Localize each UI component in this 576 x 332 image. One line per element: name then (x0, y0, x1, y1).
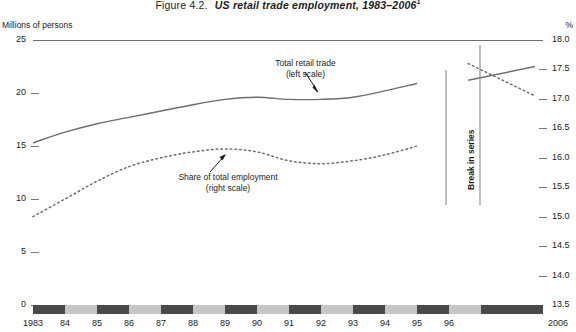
x-band-segment (193, 305, 225, 314)
x-band-segment (33, 305, 65, 314)
annotation-total-retail-trade-line1: Total retail trade (243, 58, 368, 69)
x-band-segment (417, 305, 449, 314)
annotation-share-of-total-employment: Share of total employment (right scale) (148, 172, 308, 194)
x-band-segment (481, 305, 543, 314)
x-tick-label: 85 (92, 318, 102, 328)
annotation-share-line1: Share of total employment (148, 172, 308, 183)
annotation-arrows (210, 72, 318, 172)
x-band-segment (353, 305, 385, 314)
x-band-segment (65, 305, 97, 314)
x-tick-label: 92 (316, 318, 326, 328)
x-tick-label: 89 (220, 318, 230, 328)
break-in-series-label: Break in series (466, 130, 476, 190)
x-tick-label: 95 (412, 318, 422, 328)
x-band-segment (161, 305, 193, 314)
x-band-segment (225, 305, 257, 314)
chart-plot-area (0, 0, 576, 332)
x-tick-label: 86 (124, 318, 134, 328)
x-band-segment (129, 305, 161, 314)
annotation-share-line2: (right scale) (148, 183, 308, 194)
x-tick-label: 93 (348, 318, 358, 328)
x-tick-label: 96 (444, 318, 454, 328)
annotation-total-retail-trade-line2: (left scale) (243, 69, 368, 80)
x-tick-label: 87 (156, 318, 166, 328)
x-axis-band (33, 305, 543, 314)
x-tick-label: 94 (380, 318, 390, 328)
x-tick-label: 1983 (23, 318, 43, 328)
x-tick-label: 90 (252, 318, 262, 328)
x-tick-label: 2006 (548, 318, 568, 328)
x-tick-label: 88 (188, 318, 198, 328)
x-band-segment (449, 305, 481, 314)
annotation-total-retail-trade: Total retail trade (left scale) (243, 58, 368, 80)
x-tick-label: 84 (60, 318, 70, 328)
x-band-segment (257, 305, 289, 314)
x-band-segment (97, 305, 129, 314)
x-band-segment (385, 305, 417, 314)
x-band-segment (321, 305, 353, 314)
solid-series-path (33, 84, 417, 143)
x-tick-label: 91 (284, 318, 294, 328)
x-band-segment (289, 305, 321, 314)
